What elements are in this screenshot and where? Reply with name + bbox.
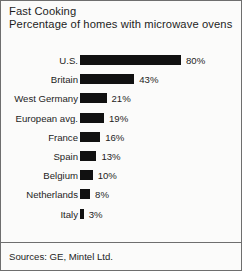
bar bbox=[80, 113, 104, 123]
category-label: France bbox=[0, 128, 78, 147]
bar bbox=[80, 189, 90, 199]
bar-row: Spain13% bbox=[1, 147, 242, 166]
bar bbox=[80, 151, 96, 161]
bar bbox=[80, 209, 84, 219]
category-label: Britain bbox=[0, 70, 78, 89]
bar-row: Britain43% bbox=[1, 70, 242, 89]
category-label: Spain bbox=[0, 147, 78, 166]
bar-wrapper bbox=[80, 209, 84, 219]
bar bbox=[80, 93, 107, 103]
bar-wrapper bbox=[80, 74, 134, 84]
category-label: European avg. bbox=[0, 109, 78, 128]
value-label: 8% bbox=[95, 185, 109, 204]
source-note: Sources: GE, Mintel Ltd. bbox=[9, 250, 113, 263]
bar bbox=[80, 170, 93, 180]
chart-title: Fast Cooking bbox=[9, 5, 235, 18]
value-label: 13% bbox=[101, 147, 120, 166]
bar-row: France16% bbox=[1, 128, 242, 147]
category-label: U.S. bbox=[0, 51, 78, 70]
bar-wrapper bbox=[80, 189, 90, 199]
bar-row: Netherlands8% bbox=[1, 185, 242, 204]
value-label: 19% bbox=[109, 109, 128, 128]
bar-wrapper bbox=[80, 132, 100, 142]
footer-separator bbox=[1, 242, 241, 243]
bar-wrapper bbox=[80, 93, 107, 103]
category-label: West Germany bbox=[0, 89, 78, 108]
bar-wrapper bbox=[80, 55, 181, 65]
value-label: 10% bbox=[98, 166, 117, 185]
category-label: Netherlands bbox=[0, 185, 78, 204]
chart-title-block: Fast Cooking Percentage of homes with mi… bbox=[9, 5, 235, 31]
value-label: 16% bbox=[105, 128, 124, 147]
bar-wrapper bbox=[80, 170, 93, 180]
bar bbox=[80, 55, 181, 65]
value-label: 43% bbox=[139, 70, 158, 89]
bar bbox=[80, 74, 134, 84]
value-label: 21% bbox=[112, 89, 131, 108]
chart-frame: Fast Cooking Percentage of homes with mi… bbox=[0, 0, 242, 271]
bar-row: West Germany21% bbox=[1, 89, 242, 108]
chart-subtitle: Percentage of homes with microwave ovens bbox=[9, 18, 235, 31]
bar-wrapper bbox=[80, 113, 104, 123]
bar-row: Belgium10% bbox=[1, 166, 242, 185]
bar-plot-area: U.S.80%Britain43%West Germany21%European… bbox=[1, 51, 242, 224]
category-label: Italy bbox=[0, 205, 78, 224]
value-label: 80% bbox=[186, 51, 205, 70]
bar-row: U.S.80% bbox=[1, 51, 242, 70]
bar-row: European avg.19% bbox=[1, 109, 242, 128]
bar bbox=[80, 132, 100, 142]
category-label: Belgium bbox=[0, 166, 78, 185]
bar-row: Italy3% bbox=[1, 205, 242, 224]
bar-wrapper bbox=[80, 151, 96, 161]
value-label: 3% bbox=[89, 205, 103, 224]
